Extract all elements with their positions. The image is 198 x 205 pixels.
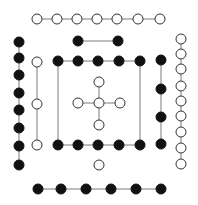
filled-node xyxy=(114,140,124,150)
open-node xyxy=(32,14,42,24)
open-node xyxy=(94,120,104,130)
filled-node xyxy=(53,56,63,66)
graph-diagram xyxy=(0,0,198,205)
filled-node xyxy=(135,140,145,150)
open-node xyxy=(94,98,104,108)
filled-node xyxy=(156,84,166,94)
open-node xyxy=(115,98,125,108)
filled-node xyxy=(73,56,83,66)
open-node xyxy=(32,57,42,67)
filled-node xyxy=(156,55,166,65)
filled-node xyxy=(14,88,24,98)
filled-node xyxy=(156,112,166,122)
open-node xyxy=(94,77,104,87)
open-node xyxy=(73,98,83,108)
filled-node xyxy=(14,105,24,115)
filled-node xyxy=(114,56,124,66)
filled-node xyxy=(56,184,66,194)
filled-node xyxy=(14,53,24,63)
filled-node xyxy=(93,140,103,150)
open-node xyxy=(155,14,165,24)
open-node xyxy=(32,99,42,109)
filled-node xyxy=(73,140,83,150)
isolated-open-node xyxy=(94,160,104,170)
filled-node xyxy=(156,184,166,194)
open-node xyxy=(176,64,186,74)
center-open-cross xyxy=(73,77,125,130)
open-node xyxy=(92,14,102,24)
filled-node xyxy=(113,36,123,46)
open-node xyxy=(112,14,122,24)
open-node xyxy=(133,14,143,24)
open-node xyxy=(176,49,186,59)
filled-node xyxy=(53,140,63,150)
open-node xyxy=(176,81,186,91)
open-node xyxy=(94,160,104,170)
filled-node xyxy=(81,184,91,194)
filled-node xyxy=(33,184,43,194)
filled-node xyxy=(106,184,116,194)
right-open-column xyxy=(176,34,186,169)
open-node xyxy=(32,140,42,150)
filled-node xyxy=(156,139,166,149)
open-node xyxy=(176,143,186,153)
open-node xyxy=(176,111,186,121)
filled-node xyxy=(14,123,24,133)
filled-node xyxy=(14,141,24,151)
filled-node xyxy=(14,70,24,80)
filled-node xyxy=(131,184,141,194)
filled-node xyxy=(73,36,83,46)
filled-node xyxy=(135,56,145,66)
open-node xyxy=(52,14,62,24)
open-node xyxy=(176,159,186,169)
filled-node xyxy=(14,37,24,47)
filled-node xyxy=(93,56,103,66)
open-node xyxy=(176,127,186,137)
open-node xyxy=(72,14,82,24)
filled-node xyxy=(14,160,24,170)
open-node xyxy=(176,34,186,44)
open-node xyxy=(176,96,186,106)
